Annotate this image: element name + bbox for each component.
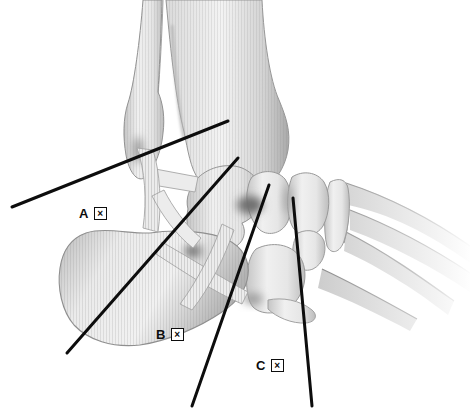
answer-box-x-icon: × <box>94 207 107 220</box>
label-b: B× <box>156 328 184 341</box>
label-letter: A <box>79 207 89 220</box>
label-letter: B <box>156 328 166 341</box>
labels-layer: A×B×C× <box>0 0 473 412</box>
label-letter: C <box>256 359 266 372</box>
x-mark: × <box>274 361 280 371</box>
answer-box-x-icon: × <box>271 359 284 372</box>
label-a: A× <box>79 207 107 220</box>
answer-box-x-icon: × <box>171 328 184 341</box>
label-c: C× <box>256 359 284 372</box>
x-mark: × <box>174 330 180 340</box>
ankle-foot-diagram: A×B×C× <box>0 0 473 412</box>
x-mark: × <box>97 209 103 219</box>
